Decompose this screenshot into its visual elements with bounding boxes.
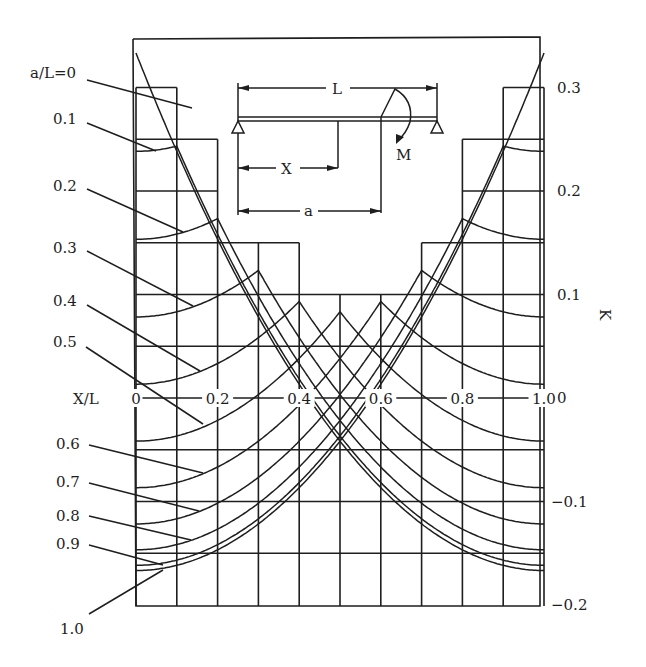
pin-support-icon [232,121,244,133]
arrowhead-icon [370,208,381,214]
outer-frame [133,37,540,606]
a-distance-label: a [304,202,313,220]
x-tick-label: 0.6 [369,390,393,408]
y-axis-label: K [596,309,614,321]
curve-label: 0.4 [53,292,77,310]
arrowhead-icon [426,85,437,91]
x-tick-label: 0.2 [206,390,230,408]
y-tick-label: 0 [557,389,567,407]
x-tick-label: 0 [131,390,141,408]
beam-diagram: L M X a [232,80,443,220]
curve-label: 0.2 [53,177,77,195]
leader-line [87,305,200,371]
influence-chart: L M X a 00.20.40.60.81.0 X/L 0.30.20.10−… [0,0,646,667]
curve-label: 0.6 [56,435,80,453]
curve-label: 0.3 [53,239,77,257]
x-axis-label: X/L [73,390,99,408]
leader-line [86,347,203,424]
y-tick-label: 0.2 [557,182,581,200]
moment-label: M [396,146,411,164]
arrowhead-icon [327,165,338,171]
curve-label: a/L=0 [30,64,76,82]
y-axis-ticks: 0.30.20.10−0.1−0.2 [551,79,587,615]
leader-line [87,123,156,151]
curve-label: 0.1 [53,110,77,128]
arrowhead-icon [238,165,249,171]
y-tick-label: 0.3 [557,79,581,97]
roller-support-icon [431,121,443,133]
leader-line [89,545,163,565]
arrowhead-icon [238,85,249,91]
moment-arc [381,89,411,140]
y-tick-label: 0.1 [557,286,581,304]
curve-label: 0.5 [53,333,77,351]
x-tick-label: 1.0 [532,390,556,408]
beam-length-label: L [332,80,342,98]
leader-line [89,570,163,614]
x-distance-label: X [281,160,292,178]
x-tick-label: 0.4 [287,390,311,408]
arrowhead-icon [238,208,249,214]
y-tick-label: −0.1 [551,493,587,511]
leader-line [87,189,183,232]
curve-label: 1.0 [60,620,84,638]
curve-label: 0.7 [56,473,80,491]
y-tick-label: −0.2 [551,596,587,614]
curve-label: 0.8 [56,507,80,525]
curve-label: 0.9 [56,535,80,553]
x-tick-label: 0.8 [450,390,474,408]
